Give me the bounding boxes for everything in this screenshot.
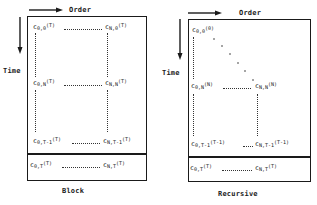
cell-c-0-0: c0,0(0): [192, 26, 214, 34]
cell-c-n-t-minus-1: cN,T-1(T): [103, 137, 131, 145]
time-arrow-icon: [178, 19, 183, 60]
cell-c-0-n: c0,N(N): [191, 82, 213, 90]
dots-horizontal: [223, 88, 251, 89]
dots-vertical: [107, 90, 108, 132]
cell-c-0-t: c0,T(T): [30, 161, 52, 169]
cell-c-0-t: c0,T(T): [190, 164, 212, 172]
dots-vertical: [257, 94, 258, 136]
dots-vertical: [107, 33, 108, 77]
order-arrow-icon: [29, 8, 63, 13]
cell-c-0-n: c0,N(T): [33, 79, 55, 87]
dots-vertical: [35, 33, 36, 77]
recursive-last-row-divider: [188, 156, 311, 158]
cell-c-0-t-minus-1: c0,T-1(T-1): [191, 140, 225, 148]
block-last-row-divider: [27, 153, 147, 155]
dots-horizontal: [222, 170, 252, 171]
dots-vertical: [35, 90, 36, 132]
cell-c-n-n: cN,N(T): [105, 79, 127, 87]
time-arrow-icon: [18, 17, 23, 54]
dots-horizontal: [62, 167, 100, 168]
order-label: Order: [69, 6, 91, 14]
cell-c-0-t-minus-1: c0,T-1(T): [33, 137, 61, 145]
cell-c-n-0: cN,0(T): [105, 23, 127, 31]
dots-horizontal: [64, 85, 102, 86]
order-label: Order: [239, 9, 261, 17]
order-arrow-icon: [188, 11, 222, 16]
cell-c-n-t: cN,T(T): [103, 161, 125, 169]
dots-vertical: [193, 37, 194, 79]
block-caption: Block: [62, 187, 84, 195]
recursive-caption: Recursive: [218, 190, 258, 198]
time-label: Time: [162, 69, 180, 77]
cell-c-n-t-minus-1: cN,T-1(T-1): [255, 140, 289, 148]
cell-c-0-0: c0,0(T): [33, 23, 55, 31]
block-matrix-frame: [27, 16, 147, 181]
dots-horizontal: [72, 143, 100, 144]
time-label: Time: [3, 67, 21, 75]
cell-c-n-t: cN,T(T): [255, 164, 277, 172]
dots-vertical: [193, 94, 194, 136]
cell-c-n-n: cN,N(N): [255, 82, 277, 90]
dots-horizontal: [64, 29, 102, 30]
dots-horizontal: [243, 146, 253, 147]
